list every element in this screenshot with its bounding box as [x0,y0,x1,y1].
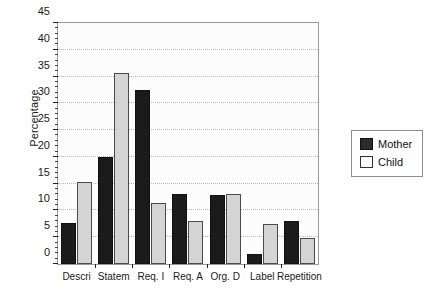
y-axis-tick-label: 0 [44,246,50,258]
x-axis-tick-label: Label [250,271,274,282]
x-axis-tick-label: Repetition [277,271,322,282]
bar-group [132,23,169,264]
bar-mother-1 [98,157,113,264]
x-axis-tick-label: Org. D [210,271,239,282]
y-axis-tick-label: 5 [44,219,50,231]
bars-layer [58,23,318,264]
bar-group [281,23,318,264]
x-axis-tick-label: Descri [62,271,90,282]
bar-chart-figure: Percentage 051015202530354045 DescriStat… [0,0,432,304]
y-axis-tick-label: 30 [38,85,50,97]
y-axis-tick-label: 45 [38,5,50,17]
y-axis-tick-label: 10 [38,192,50,204]
plot-area: 051015202530354045 DescriStatemReq. IReq… [57,22,319,265]
legend-label-mother: Mother [378,138,412,150]
x-axis-tick [132,264,133,268]
bar-child-2 [151,203,166,264]
x-axis-tick [207,264,208,268]
x-axis-tick [169,264,170,268]
x-axis-tick [95,264,96,268]
bar-group [95,23,132,264]
bar-group [244,23,281,264]
legend-label-child: Child [378,156,403,168]
bar-child-4 [226,194,241,264]
chart-legend: Mother Child [351,130,423,177]
x-axis-tick-label: Req. I [138,271,165,282]
bar-child-1 [114,73,129,264]
legend-swatch-mother-icon [360,138,373,150]
legend-swatch-child-icon [360,156,373,168]
y-axis-tick-label: 15 [38,166,50,178]
bar-mother-4 [210,195,225,264]
bar-group [58,23,95,264]
bar-group [207,23,244,264]
x-axis-tick [281,264,282,268]
bar-child-6 [300,238,315,264]
x-axis-tick [244,264,245,268]
bar-mother-6 [284,221,299,264]
bar-mother-5 [247,254,262,264]
bar-child-3 [188,221,203,264]
y-axis-tick-label: 25 [38,112,50,124]
bar-mother-3 [172,194,187,264]
bar-group [169,23,206,264]
bar-child-0 [77,182,92,264]
y-axis-tick-label: 40 [38,32,50,44]
x-axis-tick-label: Req. A [173,271,203,282]
legend-item-mother: Mother [360,138,414,150]
y-axis-tick-label: 20 [38,139,50,151]
x-axis-tick-label: Statem [98,271,130,282]
bar-mother-2 [135,90,150,264]
bar-mother-0 [61,223,76,264]
legend-item-child: Child [360,156,414,168]
bar-child-5 [263,224,278,264]
y-axis-tick-label: 35 [38,59,50,71]
